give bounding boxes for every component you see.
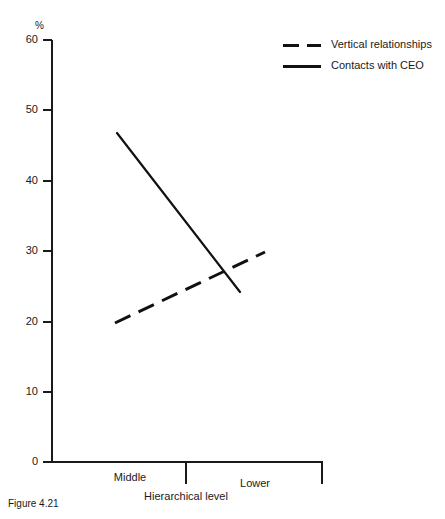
y-tick-label-10: 10 — [0, 386, 38, 397]
legend-swatch-dashed-icon — [283, 44, 321, 47]
y-tick-label-0: 0 — [0, 456, 38, 467]
chart-legend: Vertical relationships Contacts with CEO — [283, 36, 443, 78]
figure-container: % 60 50 40 30 20 10 0 Middle Lower Hiera… — [0, 0, 445, 519]
legend-label-vertical-relationships: Vertical relationships — [331, 38, 432, 50]
x-category-label-lower: Lower — [205, 478, 305, 489]
x-category-label-middle: Middle — [80, 472, 180, 483]
y-tick-label-60: 60 — [0, 34, 38, 45]
y-tick-label-20: 20 — [0, 316, 38, 327]
figure-caption: Figure 4.21 — [8, 498, 59, 509]
series-line-contacts-with-ceo — [117, 133, 240, 292]
y-tick-label-50: 50 — [0, 104, 38, 115]
legend-label-contacts-with-ceo: Contacts with CEO — [331, 59, 424, 71]
series-line-vertical-relationships — [115, 252, 265, 323]
y-tick-label-40: 40 — [0, 175, 38, 186]
y-tick-label-30: 30 — [0, 245, 38, 256]
x-axis-title: Hierarchical level — [116, 491, 256, 502]
legend-item-vertical-relationships: Vertical relationships — [283, 36, 443, 57]
legend-item-contacts-with-ceo: Contacts with CEO — [283, 57, 443, 78]
legend-swatch-solid-icon — [283, 65, 321, 68]
y-axis-ticks — [43, 40, 52, 462]
y-axis-unit-label: % — [35, 21, 44, 31]
